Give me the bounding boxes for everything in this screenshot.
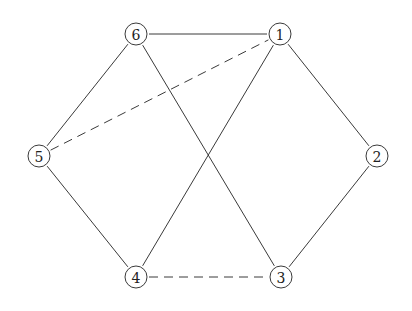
node-label: 3 — [277, 270, 286, 286]
node-4: 4 — [125, 266, 147, 288]
node-6: 6 — [125, 23, 147, 45]
edges — [47, 34, 369, 277]
node-3: 3 — [270, 266, 292, 288]
node-label: 1 — [276, 27, 285, 43]
graph-diagram: 123456 — [0, 0, 412, 311]
edge-2-3 — [289, 166, 369, 267]
edge-6-5 — [47, 44, 128, 146]
node-1: 1 — [269, 23, 291, 45]
edge-5-1 — [51, 40, 269, 150]
edge-5-4 — [47, 166, 128, 267]
node-label: 5 — [35, 149, 44, 165]
edge-1-2 — [288, 44, 369, 146]
node-label: 6 — [132, 27, 141, 43]
node-2: 2 — [366, 145, 388, 167]
node-5: 5 — [28, 145, 50, 167]
node-label: 2 — [373, 149, 382, 165]
node-label: 4 — [132, 270, 141, 286]
